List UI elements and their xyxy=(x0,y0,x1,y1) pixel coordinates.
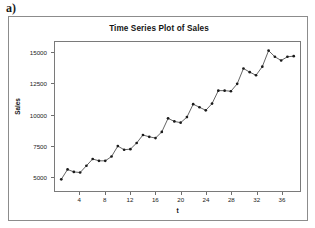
y-tick-label: 12500 xyxy=(13,80,47,87)
x-tick-label: 24 xyxy=(194,196,218,203)
x-tick-label: 28 xyxy=(219,196,243,203)
data-point xyxy=(280,59,283,62)
data-point xyxy=(261,65,264,68)
x-tick-label: 4 xyxy=(67,196,91,203)
data-point xyxy=(192,103,195,106)
data-point xyxy=(110,155,113,158)
data-point xyxy=(186,116,189,119)
data-point xyxy=(148,135,151,138)
data-point xyxy=(198,106,201,109)
x-tick-mark xyxy=(181,192,182,195)
y-tick-label: 15000 xyxy=(13,49,47,56)
y-tick-label: 7500 xyxy=(13,142,47,149)
data-point xyxy=(160,131,163,134)
data-point xyxy=(230,90,233,93)
data-point xyxy=(142,134,145,137)
y-axis-label: Sales xyxy=(14,87,21,127)
data-point xyxy=(173,120,176,123)
data-point xyxy=(85,164,88,167)
data-point xyxy=(79,171,82,174)
data-point xyxy=(104,160,107,163)
x-tick-label: 12 xyxy=(118,196,142,203)
chart-title: Time Series Plot of Sales xyxy=(9,24,309,33)
series-line xyxy=(61,51,293,180)
data-point xyxy=(179,121,182,124)
x-tick-mark xyxy=(105,192,106,195)
x-tick-mark xyxy=(79,192,80,195)
x-tick-mark xyxy=(130,192,131,195)
data-point xyxy=(129,148,132,151)
data-point xyxy=(66,168,69,171)
data-point xyxy=(223,89,226,92)
data-point xyxy=(292,55,295,58)
data-point xyxy=(167,117,170,120)
data-point xyxy=(267,49,270,52)
y-tick-label: 5000 xyxy=(13,174,47,181)
data-point xyxy=(154,137,157,140)
x-tick-label: 32 xyxy=(245,196,269,203)
x-tick-label: 36 xyxy=(270,196,294,203)
x-tick-mark xyxy=(155,192,156,195)
data-point xyxy=(286,55,289,58)
x-tick-mark xyxy=(282,192,283,195)
x-tick-label: 20 xyxy=(169,196,193,203)
data-point xyxy=(242,67,245,70)
x-tick-label: 8 xyxy=(93,196,117,203)
data-point xyxy=(91,158,94,161)
data-point xyxy=(236,83,239,86)
data-point xyxy=(217,89,220,92)
data-point xyxy=(255,74,258,77)
data-point xyxy=(211,102,214,105)
y-tick-label: 10000 xyxy=(13,111,47,118)
data-point xyxy=(135,142,138,145)
x-tick-mark xyxy=(206,192,207,195)
data-point xyxy=(204,109,207,112)
figure-frame: Time Series Plot of Sales Sales t 500075… xyxy=(8,16,308,221)
data-point xyxy=(73,171,76,174)
x-axis-label: t xyxy=(54,207,301,214)
data-point xyxy=(98,160,101,163)
figure-root: a) Time Series Plot of Sales Sales t 500… xyxy=(0,0,315,228)
series-plot xyxy=(55,42,300,191)
data-point xyxy=(60,178,63,181)
data-point xyxy=(123,148,126,151)
plot-area xyxy=(54,41,301,192)
x-tick-mark xyxy=(257,192,258,195)
x-tick-label: 16 xyxy=(143,196,167,203)
part-label: a) xyxy=(6,1,16,16)
data-point xyxy=(248,71,251,74)
data-point xyxy=(274,55,277,58)
data-point xyxy=(116,145,119,148)
x-tick-mark xyxy=(231,192,232,195)
